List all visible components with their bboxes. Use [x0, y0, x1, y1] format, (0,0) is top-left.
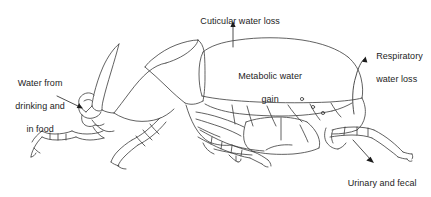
hind-leg-coxa-lower — [338, 143, 346, 149]
urinary-arrow-shaft — [353, 140, 371, 160]
elytra-left-edge — [199, 52, 203, 96]
label-water-intake-line1: Water from — [18, 78, 63, 88]
pronotum-inner-fold — [145, 67, 185, 103]
hind-leg-tibia-upper — [374, 130, 403, 152]
head-capsule-upper — [79, 93, 94, 112]
middle-leg-ring-3 — [136, 136, 145, 146]
middle-leg-ring-1 — [150, 124, 159, 134]
pronotum-ventral-edge — [114, 113, 158, 121]
label-urinary-line1: Urinary and fecal — [348, 178, 417, 188]
urinary-arrow-head — [366, 157, 374, 163]
head-ridge — [84, 100, 92, 102]
middle-leg-tibia-upper — [111, 140, 132, 162]
pronotum-ventral-edge2 — [158, 109, 174, 119]
label-metabolic-water-gain: Metabolic water gain — [215, 59, 315, 117]
hind-leg-ring-1 — [344, 127, 345, 135]
mid-rear-leg-ring-3 — [231, 146, 232, 153]
label-metabolic-line2: gain — [261, 94, 278, 104]
horn-base-left — [86, 106, 92, 112]
label-respiratory-line2: water loss — [376, 74, 417, 84]
mesothorax-front — [186, 105, 209, 142]
hind-leg-claw-1 — [412, 154, 413, 159]
elytra-rear-right — [357, 98, 365, 130]
beetle-pronotum-group — [114, 40, 205, 121]
hind-leg-tarsus-1 — [403, 152, 412, 154]
label-water-intake-line2: drinking and — [15, 101, 65, 111]
pronotum-front-curve — [114, 63, 166, 113]
hind-leg-tarsus-2 — [398, 157, 407, 159]
label-water-intake-line3: in food — [26, 124, 53, 134]
label-urinary-and-fecal-water-loss: Urinary and fecal water loss — [326, 166, 428, 197]
label-water-from-drinking-and-in-food: Water from drinking and in food — [2, 66, 68, 147]
front-leg-femur-upper — [76, 137, 104, 140]
mid-rear-leg-ring-2 — [221, 142, 222, 149]
pronotum-horn-lower — [145, 40, 198, 67]
beetle-middle-leg-group — [111, 118, 166, 169]
hind-leg-femur-lower — [330, 135, 372, 138]
ventral-line-5 — [238, 159, 241, 162]
hind-leg-claw-2 — [407, 159, 412, 161]
sternite-divider-2 — [300, 125, 308, 142]
middle-leg-ring-2 — [143, 130, 152, 140]
pronotum-bottom-edge — [185, 101, 203, 104]
front-leg-claw-2 — [34, 148, 40, 153]
sternite-inner-fold — [266, 145, 292, 150]
beetle-hind-leg-group — [325, 127, 413, 161]
middle-leg-claw — [118, 166, 126, 169]
mid-rear-leg-ring-4 — [241, 150, 242, 156]
hind-leg-tibia-lower — [372, 138, 398, 157]
middle-leg-tarsus — [111, 162, 119, 166]
beetle-mid-rear-leg-group — [198, 130, 271, 167]
mid-rear-leg-tarsus — [268, 160, 271, 166]
mid-rear-leg-claw — [262, 164, 268, 167]
label-cuticular-line1: Cuticular water loss — [200, 16, 280, 26]
beetle-water-balance-figure: Cuticular water loss Metabolic water gai… — [0, 0, 431, 197]
pronotum-horn-upper — [166, 40, 198, 63]
elytra-top-curve — [203, 38, 348, 57]
beetle-head-horn-group — [79, 44, 119, 127]
label-respiratory-line1: Respiratory — [376, 51, 423, 61]
mid-rear-leg-tibia-lower — [250, 158, 262, 164]
horn-base-right — [102, 110, 114, 113]
horn-tip — [92, 106, 102, 111]
sternite-left — [244, 122, 252, 151]
label-respiratory-water-loss: Respiratory water loss — [366, 39, 430, 97]
sternite-right — [307, 122, 320, 148]
label-metabolic-line1: Metabolic water — [238, 71, 302, 81]
label-cuticular-water-loss: Cuticular water loss — [190, 4, 280, 39]
ventral-line-4 — [229, 155, 238, 162]
horn-outer-edge — [92, 44, 119, 106]
